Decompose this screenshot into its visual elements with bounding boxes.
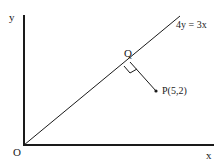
y-axis-label: y [9,12,15,23]
point-p-dot [154,89,157,92]
perpendicular-segment-qp [130,62,156,91]
point-q-label: Q [124,48,132,59]
line-equation-label: 4y = 3x [176,20,207,30]
point-p-label: P(5,2) [162,86,187,96]
origin-label: O [13,147,21,158]
line-4y-3x [24,16,180,145]
x-axis-label: x [206,150,212,161]
